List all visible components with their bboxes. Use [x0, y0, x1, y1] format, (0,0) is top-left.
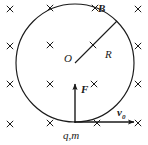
- field-cross-icon: [91, 81, 97, 87]
- center-label: O: [64, 53, 72, 64]
- field-cross-icon: [94, 120, 100, 126]
- field-cross-icon: [7, 121, 13, 127]
- physics-diagram: B O R F v0 q,m: [0, 0, 148, 145]
- field-cross-icon: [135, 81, 141, 87]
- field-cross-icon: [135, 6, 141, 12]
- force-label: F: [81, 84, 88, 95]
- field-cross-icon: [7, 43, 13, 49]
- diagram-canvas: [0, 0, 148, 145]
- field-cross-icon: [135, 120, 141, 126]
- particle-point: [74, 121, 76, 123]
- velocity-subscript: 0: [122, 113, 126, 121]
- particle-label: q,m: [63, 130, 79, 141]
- field-cross-icon: [7, 6, 13, 12]
- magnetic-field-label: B: [98, 3, 105, 14]
- field-cross-icon: [47, 120, 53, 126]
- field-cross-icon: [135, 43, 141, 49]
- field-cross-icon: [7, 81, 13, 87]
- velocity-label: v0: [117, 107, 125, 121]
- field-cross-icon: [47, 81, 53, 87]
- field-cross-icon: [47, 42, 53, 48]
- radius-label: R: [105, 49, 112, 60]
